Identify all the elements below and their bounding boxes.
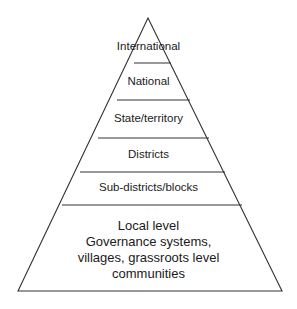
level-districts-label: Districts — [0, 148, 297, 160]
level-local-line-2: Governance systems, — [0, 234, 297, 250]
level-national-label: National — [0, 75, 297, 87]
level-local-line-4: communities — [0, 266, 297, 282]
level-state-label: State/territory — [0, 112, 297, 124]
level-local-line-1: Local level — [0, 218, 297, 234]
level-international-label: International — [0, 40, 297, 52]
level-local-line-3: villages, grassroots level — [0, 250, 297, 266]
level-subdistricts-label: Sub-districts/blocks — [0, 181, 297, 193]
